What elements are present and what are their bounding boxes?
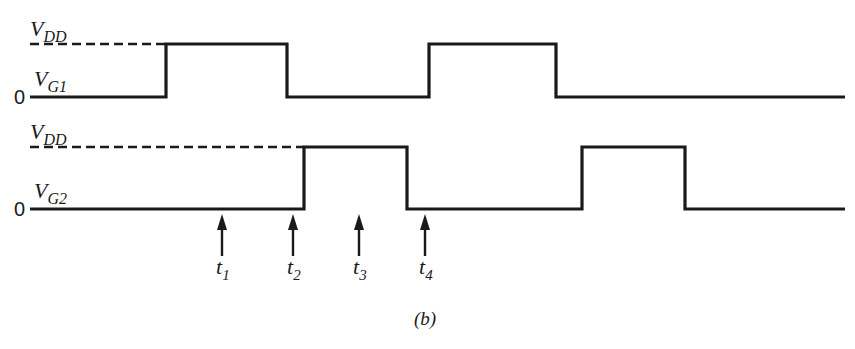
arrowhead-icon (288, 214, 298, 230)
marker-label-t2: t2 (287, 254, 301, 283)
vg2-label: VG2 (34, 178, 67, 207)
zero-label-vg1: 0 (14, 86, 25, 108)
waveform-vg2 (30, 147, 845, 209)
vdd-label-vg2: VDD (30, 119, 67, 148)
marker-label-t1: t1 (216, 254, 230, 283)
marker-t1: t1 (216, 214, 230, 283)
marker-t2: t2 (287, 214, 301, 283)
waveform-vg1 (30, 44, 845, 97)
signal-vg2: VDD VG2 0 (14, 119, 845, 220)
figure-caption: (b) (414, 308, 436, 330)
arrowhead-icon (420, 214, 430, 230)
time-markers: t1 t2 t3 t4 (216, 214, 433, 283)
vg1-label: VG1 (34, 66, 67, 95)
signal-vg1: VDD VG1 0 (14, 16, 845, 108)
marker-label-t3: t3 (353, 254, 367, 283)
arrowhead-icon (217, 214, 227, 230)
timing-diagram: VDD VG1 0 VDD VG2 0 t1 t2 t3 (0, 0, 855, 349)
arrowhead-icon (354, 214, 364, 230)
marker-t4: t4 (419, 214, 433, 283)
marker-label-t4: t4 (419, 254, 433, 283)
vdd-label-vg1: VDD (30, 16, 67, 45)
zero-label-vg2: 0 (14, 198, 25, 220)
marker-t3: t3 (353, 214, 367, 283)
